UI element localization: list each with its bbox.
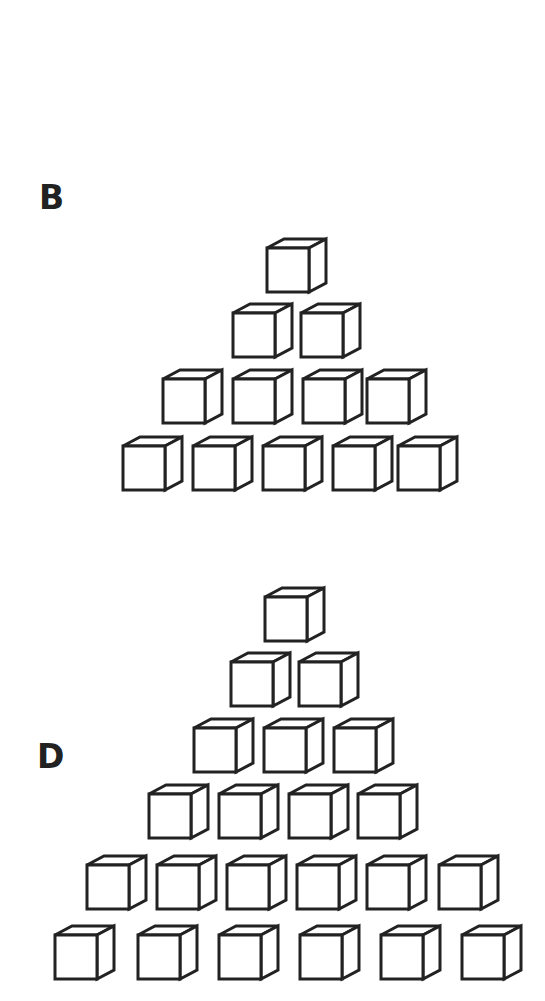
cube-d-r6-c4 (300, 926, 359, 979)
cube-d-r5-c3 (227, 856, 286, 909)
cube-b-r1-c1 (267, 239, 326, 292)
cube-d-r5-c4 (297, 856, 356, 909)
cube-d-r4-c1 (149, 785, 208, 838)
pyramid-figure-d (55, 588, 521, 979)
cube-b-r3-c4 (367, 370, 426, 423)
cube-d-r5-c2 (157, 856, 216, 909)
cube-b-r4-c1 (123, 437, 182, 490)
cube-d-r1-c1 (265, 588, 324, 641)
cube-b-r3-c1 (163, 370, 222, 423)
cube-d-r4-c4 (358, 785, 417, 838)
cube-d-r2-c1 (231, 653, 290, 706)
cube-d-r5-c1 (87, 856, 146, 909)
cube-pyramids (0, 0, 545, 1001)
pyramid-figure-b (123, 239, 457, 490)
cube-b-r4-c2 (193, 437, 252, 490)
cube-b-r4-c3 (263, 437, 322, 490)
cube-d-r2-c2 (299, 653, 358, 706)
cube-d-r6-c2 (138, 926, 197, 979)
cube-d-r6-c3 (219, 926, 278, 979)
cube-b-r3-c3 (303, 370, 362, 423)
cube-b-r4-c5 (398, 437, 457, 490)
cube-d-r3-c2 (264, 719, 323, 772)
cube-b-r2-c1 (233, 304, 292, 357)
cube-d-r6-c6 (462, 926, 521, 979)
cube-b-r4-c4 (333, 437, 392, 490)
cube-d-r4-c3 (289, 785, 348, 838)
cube-d-r3-c3 (334, 719, 393, 772)
cube-b-r3-c2 (233, 370, 292, 423)
cube-d-r3-c1 (194, 719, 253, 772)
cube-d-r6-c1 (55, 926, 114, 979)
cube-b-r2-c2 (301, 304, 360, 357)
cube-d-r5-c5 (367, 856, 426, 909)
cube-d-r4-c2 (219, 785, 278, 838)
cube-d-r5-c6 (439, 856, 498, 909)
cube-d-r6-c5 (381, 926, 440, 979)
